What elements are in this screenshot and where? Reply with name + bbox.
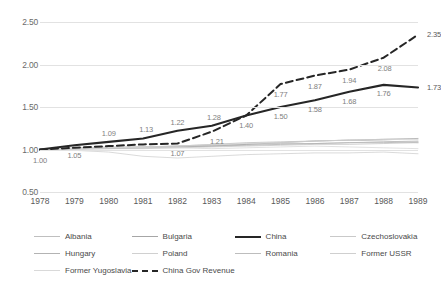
x-axis-tick-label: 1979 [65, 196, 84, 206]
legend-label: China Gov Revenue [163, 266, 235, 275]
data-point-label: 1.00 [33, 155, 47, 164]
x-axis-tick-label: 1987 [340, 196, 359, 206]
legend-item[interactable]: Czechoslovakia [330, 232, 426, 241]
data-point-label: 1.05 [67, 151, 81, 160]
data-point-label: 1.13 [139, 125, 153, 134]
legend-swatch-icon [34, 270, 60, 271]
plot-area: 1.001.051.091.131.221.281.401.501.581.68… [40, 22, 418, 192]
legend-swatch-icon [330, 253, 356, 254]
legend-swatch-icon [235, 236, 261, 238]
y-axis-tick-label: 2.00 [4, 60, 38, 70]
y-axis: 0.501.001.502.002.50 [0, 22, 38, 192]
x-axis-tick-label: 1989 [409, 196, 428, 206]
legend-item[interactable]: Bulgaria [132, 232, 235, 241]
legend-label: Poland [163, 249, 188, 258]
legend-item[interactable]: China Gov Revenue [132, 266, 235, 275]
legend-swatch-icon [132, 253, 158, 254]
data-point-label: 1.28 [207, 112, 221, 121]
gridline [40, 22, 418, 23]
series-line [40, 150, 418, 159]
x-axis-tick-label: 1983 [202, 196, 221, 206]
legend-swatch-icon [235, 253, 261, 254]
data-point-label: 1.73 [427, 83, 441, 92]
legend-label: Bulgaria [163, 232, 192, 241]
data-point-label: 1.07 [171, 148, 185, 157]
legend-item[interactable]: Hungary [34, 249, 132, 258]
data-point-label: 1.40 [239, 120, 253, 129]
y-axis-tick-label: 2.50 [4, 17, 38, 27]
x-axis-tick-label: 1988 [374, 196, 393, 206]
data-point-label: 2.08 [378, 63, 392, 72]
legend-item[interactable]: Romania [235, 249, 331, 258]
y-axis-tick-label: 1.00 [4, 145, 38, 155]
data-point-label: 1.58 [308, 105, 322, 114]
data-point-label: 1.77 [274, 90, 288, 99]
x-axis-tick-label: 1981 [134, 196, 153, 206]
legend-swatch-icon [330, 236, 356, 237]
x-axis-tick-label: 1980 [99, 196, 118, 206]
legend-label: Czechoslovakia [361, 232, 417, 241]
data-point-label: 1.21 [210, 136, 224, 145]
legend-swatch-icon [34, 253, 60, 254]
legend-label: Former Yugoslavia [65, 266, 132, 275]
legend-item[interactable]: Former Yugoslavia [34, 266, 132, 275]
x-axis-tick-label: 1985 [271, 196, 290, 206]
x-axis-tick-label: 1984 [237, 196, 256, 206]
legend-item[interactable]: Albania [34, 232, 132, 241]
legend-item[interactable]: China [235, 232, 331, 241]
gridline [40, 192, 418, 193]
legend-item[interactable]: Poland [132, 249, 235, 258]
data-point-label: 2.35 [427, 29, 441, 38]
data-point-label: 1.22 [171, 117, 185, 126]
series-line [40, 35, 418, 150]
x-axis-tick-label: 1986 [305, 196, 324, 206]
data-point-label: 1.68 [342, 96, 356, 105]
legend-swatch-icon [132, 270, 158, 272]
chart-legend: AlbaniaBulgariaChinaCzechoslovakiaHungar… [34, 228, 426, 280]
gridline [40, 150, 418, 151]
y-axis-tick-label: 1.50 [4, 102, 38, 112]
x-axis-tick-label: 1982 [168, 196, 187, 206]
legend-label: Former USSR [361, 249, 411, 258]
data-point-label: 1.76 [377, 88, 391, 97]
legend-swatch-icon [132, 236, 158, 237]
data-point-label: 1.09 [102, 128, 116, 137]
gridline [40, 107, 418, 108]
legend-label: China [266, 232, 287, 241]
legend-item[interactable]: Former USSR [330, 249, 426, 258]
gridline [40, 65, 418, 66]
data-point-label: 1.87 [308, 81, 322, 90]
data-point-label: 1.94 [342, 75, 356, 84]
legend-label: Albania [65, 232, 92, 241]
x-axis-tick-label: 1978 [31, 196, 50, 206]
legend-swatch-icon [34, 236, 60, 237]
legend-label: Hungary [65, 249, 95, 258]
legend-label: Romania [266, 249, 298, 258]
data-point-label: 1.50 [274, 112, 288, 121]
